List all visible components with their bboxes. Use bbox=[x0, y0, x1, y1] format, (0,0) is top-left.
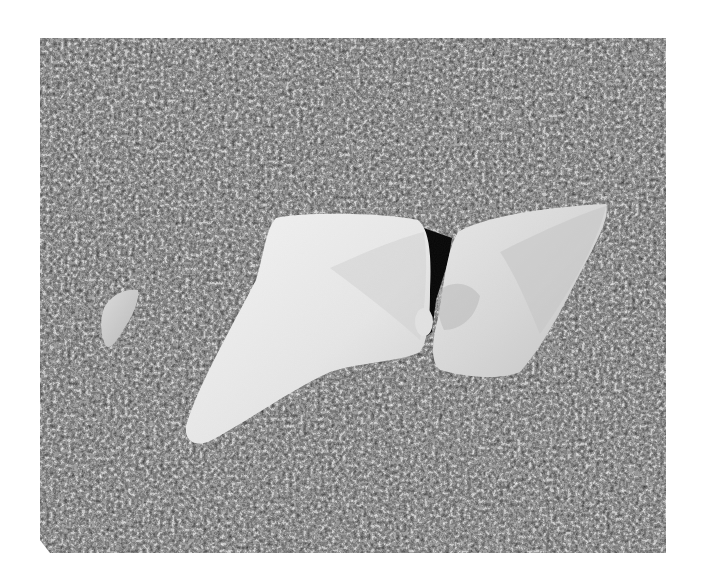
photo-canvas bbox=[40, 38, 666, 553]
photograph bbox=[40, 38, 666, 553]
film-grain bbox=[40, 38, 666, 553]
